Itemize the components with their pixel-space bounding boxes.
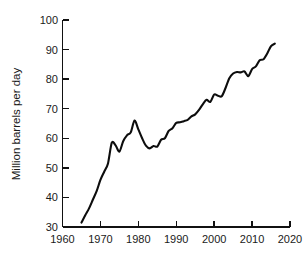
line-chart: 30405060708090100 1960197019801990200020… bbox=[0, 0, 303, 266]
x-tick-label: 1980 bbox=[126, 233, 150, 245]
x-tick-label: 2010 bbox=[240, 233, 264, 245]
x-tick-label: 2000 bbox=[202, 233, 226, 245]
chart-container: 30405060708090100 1960197019801990200020… bbox=[0, 0, 303, 266]
x-tick-label: 2020 bbox=[278, 233, 302, 245]
y-axis-title: Million barrels per day bbox=[10, 68, 22, 181]
x-tick-label: 1970 bbox=[88, 233, 112, 245]
y-tick-label: 60 bbox=[46, 132, 58, 144]
x-tick-label: 1960 bbox=[50, 233, 74, 245]
y-tick-label: 50 bbox=[46, 162, 58, 174]
y-tick-label: 100 bbox=[40, 14, 58, 26]
y-tick-label: 30 bbox=[46, 221, 58, 233]
y-tick-label: 90 bbox=[46, 44, 58, 56]
x-tick-label: 1990 bbox=[164, 233, 188, 245]
y-tick-label: 70 bbox=[46, 103, 58, 115]
y-tick-label: 80 bbox=[46, 73, 58, 85]
y-tick-label: 40 bbox=[46, 191, 58, 203]
